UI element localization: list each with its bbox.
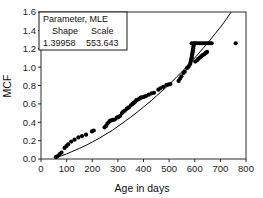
- x-tick-label: 700: [212, 163, 228, 174]
- y-tick-label: 0.4: [23, 117, 36, 128]
- x-tick-label: 800: [238, 163, 254, 174]
- data-point: [59, 150, 63, 154]
- y-tick-label: 1.2: [23, 43, 36, 54]
- y-tick-label: 0.0: [23, 153, 36, 164]
- data-point: [205, 50, 209, 54]
- legend-title: Parameter, MLE: [43, 14, 108, 24]
- y-tick-label: 1.4: [23, 25, 36, 36]
- x-tick-label: 300: [110, 163, 126, 174]
- y-axis-tick-labels: 0.00.20.40.60.81.01.21.41.6: [23, 6, 36, 164]
- y-tick-label: 0.2: [23, 135, 36, 146]
- y-tick-label: 0.8: [23, 80, 36, 91]
- x-tick-label: 500: [161, 163, 177, 174]
- legend-value-scale: 553.643: [86, 38, 119, 48]
- data-point: [183, 70, 187, 74]
- data-point: [76, 135, 80, 139]
- legend-value-shape: 1.39958: [43, 38, 76, 48]
- data-point: [152, 91, 156, 95]
- x-axis-tick-labels: 0100200300400500600700800: [38, 163, 254, 174]
- data-point: [84, 133, 88, 137]
- legend-col-scale: Scale: [91, 26, 114, 36]
- data-point-group: [54, 41, 238, 159]
- y-tick-label: 0.6: [23, 98, 36, 109]
- x-axis-title: Age in days: [115, 182, 170, 194]
- x-tick-label: 400: [136, 163, 152, 174]
- x-tick-label: 0: [38, 163, 43, 174]
- data-point: [92, 128, 96, 132]
- y-axis-title: MCF: [1, 75, 13, 98]
- chart-container: 0.00.20.40.60.81.01.21.41.6 010020030040…: [0, 0, 263, 198]
- parameter-legend: Parameter, MLE Shape Scale 1.39958 553.6…: [39, 12, 127, 50]
- x-tick-label: 200: [84, 163, 100, 174]
- data-point: [168, 82, 172, 86]
- data-point: [80, 134, 84, 138]
- y-tick-label: 1.0: [23, 62, 36, 73]
- data-point: [234, 41, 238, 45]
- y-tick-label: 1.6: [23, 6, 36, 17]
- legend-col-shape: Shape: [52, 26, 78, 36]
- data-point: [210, 41, 214, 45]
- mcf-scatter-chart: 0.00.20.40.60.81.01.21.41.6 010020030040…: [0, 0, 263, 198]
- x-tick-label: 100: [59, 163, 75, 174]
- data-point: [72, 138, 76, 142]
- x-tick-label: 600: [187, 163, 203, 174]
